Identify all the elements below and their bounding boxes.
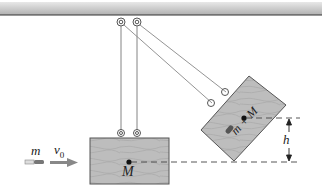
bullet-mass-label: m: [31, 143, 40, 159]
bullet: [25, 160, 44, 164]
block-eyelets: [118, 130, 141, 137]
strings-slanted: [124, 25, 226, 103]
velocity-label: v0: [54, 142, 64, 160]
block-mass-label: M: [122, 164, 134, 180]
ballistic-pendulum-diagram: [0, 0, 322, 192]
strings-vertical: [121, 26, 137, 130]
velocity-subscript: 0: [60, 150, 65, 160]
ceiling: [0, 2, 322, 15]
height-label: h: [282, 132, 291, 148]
pivot-eyelets: [117, 18, 141, 26]
